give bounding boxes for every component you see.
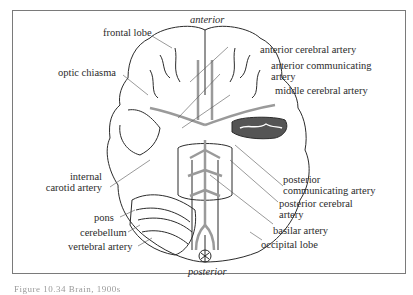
label-anterior-communicating-artery: anterior communicating artery (271, 60, 372, 82)
label-posterior-communicating-artery: posterior communicating artery (283, 174, 375, 196)
label-middle-cerebral-artery: middle cerebral artery (275, 85, 368, 96)
label-frontal-lobe: frontal lobe (103, 27, 152, 38)
figure-caption: Figure 10.34 Brain, 1900s (14, 284, 121, 294)
label-internal-carotid-artery: internal carotid artery (44, 171, 102, 193)
label-pons: pons (94, 212, 114, 223)
label-line: communicating artery (283, 185, 375, 196)
label-occipital-lobe: occipital lobe (261, 239, 318, 250)
label-line: posterior cerebral (279, 198, 353, 209)
posterior-orientation-label: posterior (188, 266, 227, 277)
anterior-orientation-label: anterior (190, 14, 224, 25)
label-line: internal (44, 171, 102, 182)
label-line: artery (279, 209, 353, 220)
label-basilar-artery: basilar artery (273, 225, 328, 236)
label-vertebral-artery: vertebral artery (68, 241, 132, 252)
label-line: anterior communicating (271, 60, 372, 71)
label-posterior-cerebral-artery: posterior cerebral artery (279, 198, 353, 220)
label-line: posterior (283, 174, 375, 185)
label-line: carotid artery (44, 182, 102, 193)
label-line: artery (271, 71, 372, 82)
label-optic-chiasma: optic chiasma (58, 67, 116, 78)
label-cerebellum: cerebellum (80, 227, 127, 238)
label-anterior-cerebral-artery: anterior cerebral artery (260, 44, 356, 55)
